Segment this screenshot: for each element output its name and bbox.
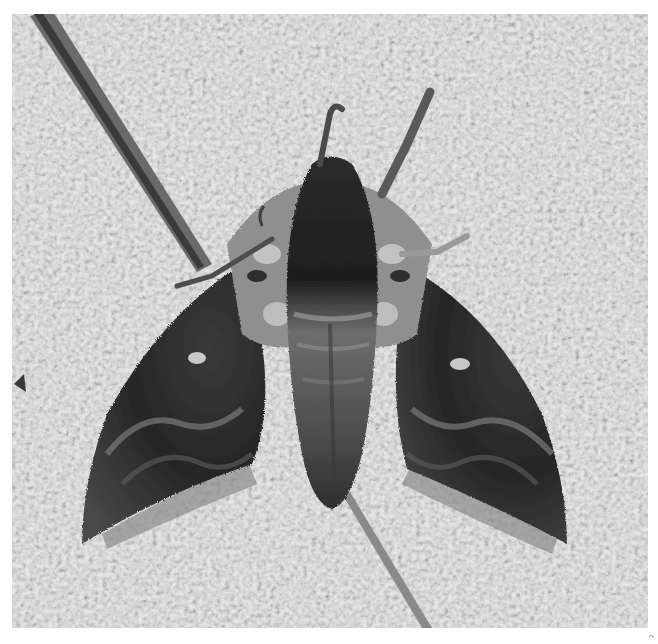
moth-photograph [12, 14, 648, 628]
corner-mark: ᴖ [648, 633, 654, 642]
left-wing-spot [188, 352, 206, 364]
right-wing-spot [450, 358, 470, 370]
